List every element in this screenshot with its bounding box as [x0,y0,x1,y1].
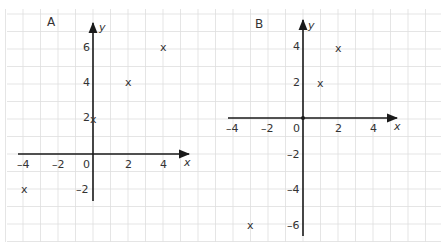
graph-a-xtick: 4 [160,158,167,171]
graph-a-xtick: 2 [125,158,132,171]
graph-b-origin-dot [301,116,305,120]
graph-b-xtick: 2 [335,122,342,135]
graph-a: A x y –4 –2 0 2 4 6 4 2 –2 x x x x [17,15,191,201]
graph-b-xtick: 4 [370,122,377,135]
graph-b-ytick: –6 [287,219,300,232]
graph-b-point: x [247,219,254,232]
graph-b-x-label: x [393,120,401,133]
graph-a-title: A [47,15,56,29]
graph-a-point: x [125,76,132,89]
graph-a-x-label: x [183,156,191,169]
graph-a-ytick: –2 [76,183,89,196]
graph-a-y-label: y [98,21,106,34]
graph-a-ytick: 2 [83,111,90,124]
graph-b-ytick: –4 [287,183,300,196]
graph-b-point: x [335,42,342,55]
graph-a-xtick: –2 [52,158,65,171]
graph-a-point: x [160,41,167,54]
graph-b-ytick: 4 [293,40,300,53]
graph-paper: A x y –4 –2 0 2 4 6 4 2 –2 x x x x B x y… [0,0,441,246]
graph-a-xtick: –4 [17,158,30,171]
graph-b-y-label: y [307,19,315,32]
graph-a-xtick: 0 [83,158,90,171]
graph-b-xtick: 0 [293,122,300,135]
graph-a-point: x [21,183,28,196]
graph-b-point: x [317,77,324,90]
graph-b-title: B [255,17,263,31]
graph-b: B x y –4 –2 0 2 4 4 2 –2 –4 –6 x x x [226,17,401,236]
graph-b-xtick: –2 [261,122,274,135]
graph-a-ytick: 6 [83,41,90,54]
graph-a-ytick: 4 [83,76,90,89]
graph-b-ytick: –2 [287,148,300,161]
graph-b-xtick: –4 [226,122,239,135]
graph-b-ytick: 2 [293,76,300,89]
graph-a-point: x [90,113,97,126]
